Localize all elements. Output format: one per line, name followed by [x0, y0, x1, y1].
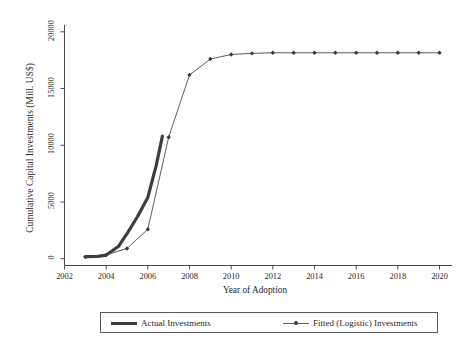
x-tick-label: 2008 — [181, 272, 198, 281]
y-tick-label: 10000 — [46, 124, 55, 164]
x-axis-title: Year of Adoption — [60, 285, 450, 295]
x-tick-label: 2004 — [98, 272, 115, 281]
marker-line-swatch-icon — [283, 318, 309, 328]
data-point-marker — [396, 51, 400, 55]
data-point-marker — [229, 52, 233, 56]
data-point-marker — [250, 51, 254, 55]
y-tick-label: 5000 — [46, 180, 55, 220]
x-tick-label: 2006 — [139, 272, 156, 281]
legend-label-actual-investments: Actual Investments — [141, 318, 211, 328]
x-axis-ticks — [65, 266, 440, 270]
y-tick-label: 20000 — [46, 10, 55, 50]
data-point-marker — [416, 51, 420, 55]
y-axis-title: Cumulative Capital Investments (Mill. US… — [25, 33, 35, 263]
series-actual-investments — [85, 136, 162, 256]
fitted-line-path — [85, 53, 439, 257]
y-tick-label: 0 — [46, 237, 55, 277]
y-tick-label: 15000 — [46, 67, 55, 107]
x-tick-label: 2010 — [223, 272, 240, 281]
x-tick-label: 2014 — [306, 272, 323, 281]
y-axis-ticks — [61, 32, 65, 259]
actual-line-path — [85, 136, 162, 256]
data-point-marker — [333, 51, 337, 55]
data-point-marker — [354, 51, 358, 55]
series-fitted-logistic-investments — [83, 51, 442, 260]
legend-entry-fitted-logistic-investments: Fitted (Logistic) Investments — [283, 316, 417, 330]
legend-entry-actual-investments: Actual Investments — [111, 316, 211, 330]
data-point-marker — [375, 51, 379, 55]
x-tick-label: 2020 — [431, 272, 448, 281]
data-point-marker — [312, 51, 316, 55]
chart-legend: Actual Investments Fitted (Logistic) Inv… — [100, 312, 438, 333]
x-tick-label: 2002 — [56, 272, 73, 281]
legend-label-fitted-logistic-investments: Fitted (Logistic) Investments — [313, 318, 417, 328]
data-point-marker — [437, 51, 441, 55]
data-point-marker — [291, 51, 295, 55]
x-tick-label: 2016 — [348, 272, 365, 281]
data-point-marker — [271, 51, 275, 55]
x-tick-label: 2018 — [389, 272, 406, 281]
data-point-marker — [166, 135, 170, 139]
x-tick-label: 2012 — [264, 272, 281, 281]
thick-line-swatch-icon — [111, 318, 137, 328]
chart-figure: Cumulative Capital Investments (Mill. US… — [0, 0, 459, 347]
